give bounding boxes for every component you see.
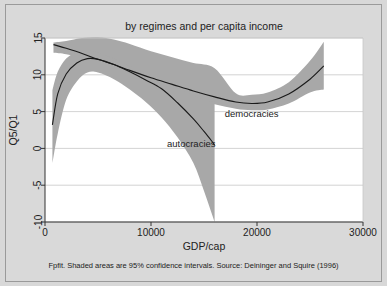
y-tick-label-5: 15 xyxy=(33,32,44,44)
y-axis-title: Q5/Q1 xyxy=(7,114,19,145)
y-tick-label-1: -5 xyxy=(33,180,44,189)
y-tick-label-3: 5 xyxy=(33,108,44,114)
x-tick-label-1: 10000 xyxy=(137,227,165,238)
figure-container: -10-50510150100002000030000Q5/Q1GDP/capb… xyxy=(0,0,387,286)
x-axis-title: GDP/cap xyxy=(183,240,226,252)
x-tick-label-3: 30000 xyxy=(349,227,377,238)
x-tick-label-2: 20000 xyxy=(243,227,271,238)
plot-title: by regimes and per capita income xyxy=(125,20,283,32)
series-label-0: democracies xyxy=(225,108,279,119)
y-tick-label-2: 0 xyxy=(33,145,44,151)
figure-note: Fpfit. Shaded areas are 95% confidence i… xyxy=(48,261,339,270)
series-label-1: autocracies xyxy=(167,138,216,149)
y-tick-label-4: 10 xyxy=(33,69,44,81)
chart-canvas: -10-50510150100002000030000Q5/Q1GDP/capb… xyxy=(0,0,387,286)
x-tick-label-0: 0 xyxy=(42,227,48,238)
